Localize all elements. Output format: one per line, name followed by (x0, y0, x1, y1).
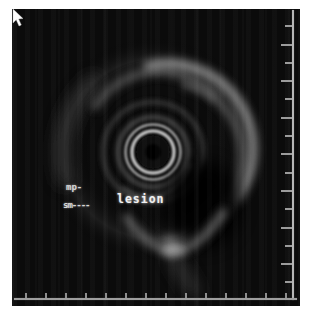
right-ruler-line (292, 10, 294, 300)
transducer-core (145, 144, 161, 160)
bottom-ruler-line (14, 298, 297, 300)
sm-layer-label: sm---- (63, 200, 90, 210)
page: { "window": { "background": "#ffffff", "… (0, 0, 313, 317)
scan-render (12, 9, 300, 306)
lesion-label: lesion (117, 192, 165, 206)
mp-layer-label: mp- (66, 182, 82, 192)
ultrasound-image: mp- sm---- lesion (12, 9, 300, 306)
right-ruler-major-ticks (281, 9, 292, 300)
far-wall-tail (172, 255, 196, 295)
mouse-arrow-pointer-icon (12, 9, 25, 27)
